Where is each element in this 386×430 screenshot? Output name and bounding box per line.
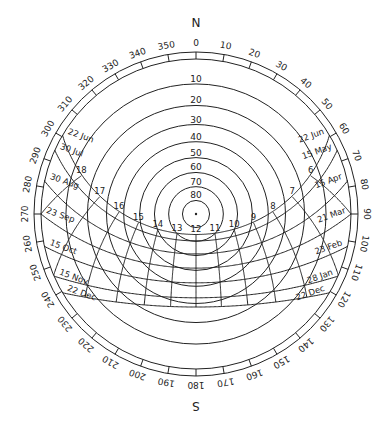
azimuth-tick: [249, 360, 251, 367]
hour-label: 17: [94, 186, 105, 196]
azimuth-label: 190: [157, 376, 176, 389]
azimuth-label: 70: [350, 148, 363, 162]
altitude-label: 10: [190, 74, 202, 84]
altitude-label: 50: [190, 148, 202, 158]
hour-label: 8: [270, 201, 275, 211]
south-label: S: [192, 399, 200, 413]
azimuth-label: 340: [128, 46, 148, 61]
azimuth-label: 260: [21, 234, 34, 253]
azimuth-tick: [342, 159, 349, 161]
azimuth-tick: [72, 314, 77, 318]
date-label-west: 22 Dec: [66, 283, 98, 303]
zenith-dot: [195, 213, 197, 215]
altitude-label: 30: [190, 115, 202, 125]
date-label-east: 15 Apr: [313, 171, 343, 190]
hour-label: 7: [290, 186, 295, 196]
altitude-label: 20: [190, 95, 202, 105]
azimuth-tick: [115, 348, 119, 354]
azimuth-label: 90: [362, 208, 372, 220]
azimuth-label: 140: [296, 336, 316, 355]
altitude-label: 80: [190, 190, 202, 200]
hour-label: 11: [210, 223, 221, 233]
azimuth-label: 280: [21, 175, 34, 194]
azimuth-label: 230: [55, 314, 74, 334]
date-label-east: 23 Feb: [313, 237, 343, 256]
date-label-west: 30 Jul: [59, 141, 85, 159]
azimuth-tick: [141, 62, 143, 69]
azimuth-tick: [296, 333, 300, 338]
azimuth-label: 130: [317, 314, 336, 334]
azimuth-tick: [72, 110, 77, 114]
azimuth-tick: [44, 159, 51, 161]
date-label-east: 21 Mar: [316, 205, 348, 225]
azimuth-tick: [168, 54, 169, 61]
altitude-label: 60: [190, 162, 202, 172]
azimuth-tick: [56, 292, 62, 296]
hour-label: 14: [152, 219, 163, 229]
hour-label: 10: [229, 219, 240, 229]
date-label-east: 28 Jan: [306, 267, 334, 286]
azimuth-tick: [56, 133, 62, 137]
azimuth-tick: [296, 90, 300, 95]
hour-label: 16: [114, 201, 125, 211]
azimuth-label: 200: [127, 367, 147, 382]
date-label-east: 22 Dec: [294, 283, 326, 303]
azimuth-tick: [330, 292, 336, 296]
azimuth-tick: [349, 186, 356, 187]
azimuth-tick: [223, 54, 224, 61]
azimuth-tick: [315, 314, 320, 318]
azimuth-label: 310: [56, 94, 75, 114]
azimuth-tick: [249, 62, 251, 69]
hour-label: 12: [191, 224, 202, 234]
azimuth-label: 110: [349, 263, 364, 283]
azimuth-tick: [141, 360, 143, 367]
hour-label: 6: [308, 165, 313, 175]
hour-line: [171, 234, 178, 307]
azimuth-tick: [36, 241, 43, 242]
azimuth-tick: [44, 267, 51, 269]
azimuth-tick: [349, 241, 356, 242]
hour-line: [254, 223, 276, 302]
altitude-label: 70: [190, 177, 202, 187]
azimuth-label: 250: [28, 262, 43, 282]
azimuth-label: 220: [76, 335, 96, 354]
azimuth-label: 290: [28, 145, 43, 165]
azimuth-label: 30: [274, 59, 289, 74]
azimuth-tick: [315, 110, 320, 114]
azimuth-label: 80: [358, 178, 370, 191]
azimuth-label: 40: [298, 75, 313, 90]
altitude-label: 40: [190, 132, 202, 142]
azimuth-label: 170: [216, 376, 235, 389]
azimuth-label: 0: [193, 38, 199, 48]
azimuth-tick: [168, 367, 169, 374]
azimuth-label: 350: [157, 39, 176, 52]
azimuth-tick: [330, 133, 336, 137]
north-label: N: [192, 16, 201, 30]
date-label-west: 23 Sep: [45, 205, 76, 225]
azimuth-label: 320: [76, 73, 96, 92]
date-label-east: 22 Jun: [297, 126, 326, 145]
azimuth-label: 50: [319, 96, 334, 111]
hour-label: 18: [76, 165, 87, 175]
azimuth-tick: [274, 74, 278, 80]
azimuth-label: 10: [219, 40, 232, 52]
azimuth-label: 270: [20, 205, 30, 222]
date-label-west: 15 Oct: [48, 237, 79, 256]
hour-line: [215, 234, 222, 307]
hour-line: [116, 223, 138, 302]
azimuth-label: 20: [247, 47, 261, 60]
azimuth-label: 100: [358, 234, 371, 253]
azimuth-tick: [342, 267, 349, 269]
hour-label: 15: [133, 212, 144, 222]
date-label-west: 22 Jun: [67, 126, 96, 145]
hour-label: 13: [172, 223, 183, 233]
azimuth-label: 160: [244, 367, 264, 382]
azimuth-tick: [36, 186, 43, 187]
hour-label: 9: [251, 212, 256, 222]
azimuth-tick: [115, 74, 119, 80]
sun-path-diagram: 0102030405060708090100110120130140150160…: [0, 0, 386, 430]
azimuth-label: 60: [337, 121, 352, 136]
azimuth-tick: [92, 90, 96, 95]
azimuth-label: 180: [187, 380, 204, 390]
azimuth-tick: [92, 333, 96, 338]
